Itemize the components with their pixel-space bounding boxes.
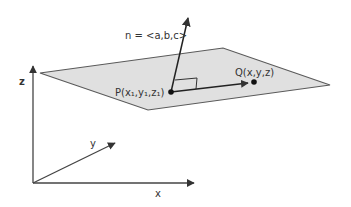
point-p-label: P(x₁,y₁,z₁)	[115, 87, 164, 98]
plane-normal-diagram: n = <a,b,c> P(x₁,y₁,z₁) Q(x,y,z) z x y	[0, 0, 351, 207]
y-axis-label: y	[90, 138, 96, 149]
z-axis-label: z	[19, 76, 25, 87]
point-q	[251, 79, 257, 85]
point-p	[168, 89, 174, 95]
normal-label: n = <a,b,c>	[125, 30, 187, 41]
y-axis	[33, 143, 115, 183]
point-q-label: Q(x,y,z)	[235, 67, 274, 78]
x-axis-label: x	[155, 188, 161, 199]
